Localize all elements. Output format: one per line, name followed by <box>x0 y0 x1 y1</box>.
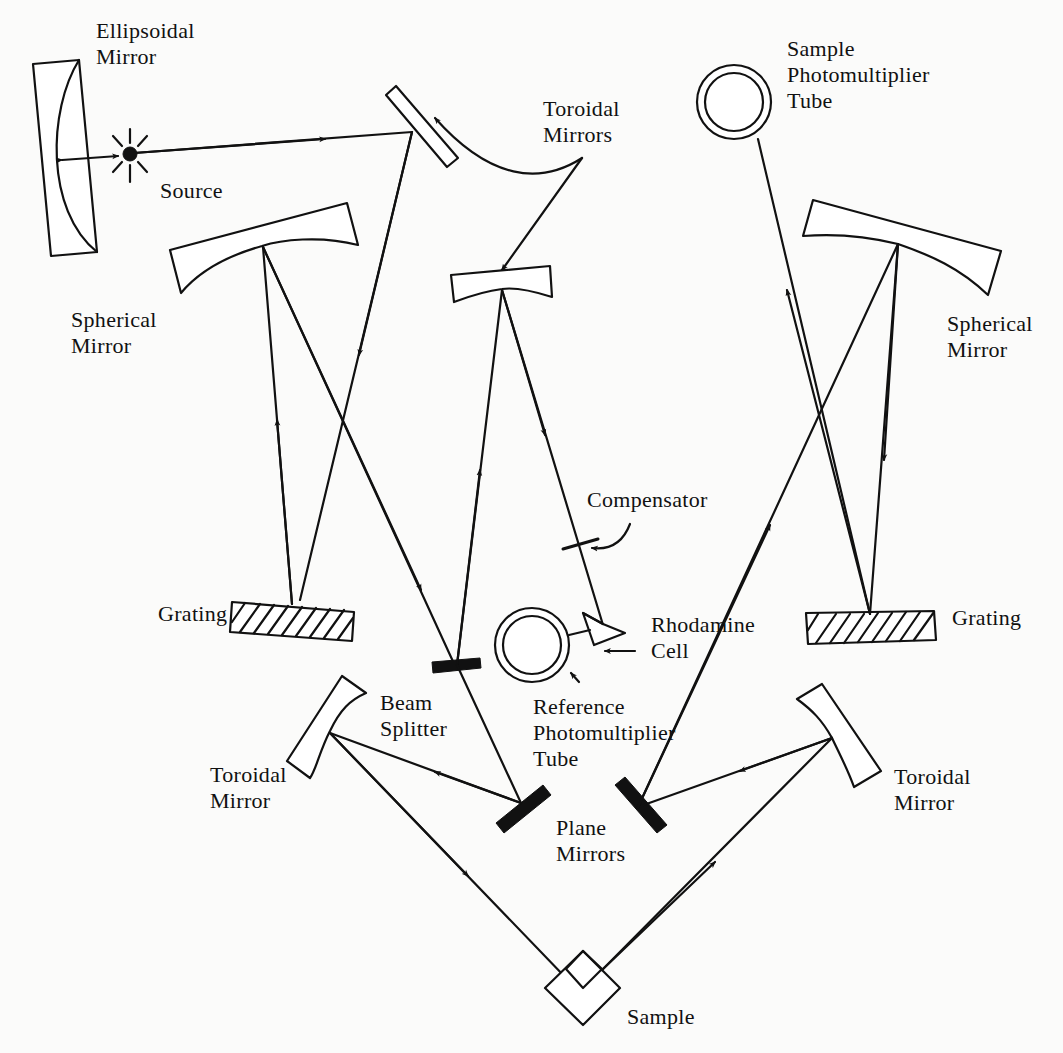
spectrometer-optical-diagram <box>0 0 1063 1053</box>
grating-right-icon <box>806 611 936 644</box>
label-source: Source <box>160 178 223 204</box>
label-grating-left: Grating <box>158 601 227 627</box>
sample-photomultiplier-icon <box>697 65 771 139</box>
rhodamine-cell-icon <box>583 613 625 645</box>
plane-mirror-left-icon <box>496 785 551 833</box>
label-ellipsoidal-mirror: Ellipsoidal Mirror <box>96 18 195 70</box>
label-beam-splitter: Beam Splitter <box>380 690 447 742</box>
label-toroidal-mirrors: Toroidal Mirrors <box>543 96 620 148</box>
label-sample: Sample <box>627 1004 695 1030</box>
grating-left-icon <box>230 602 354 641</box>
label-spherical-mirror-right: Spherical Mirror <box>947 311 1033 363</box>
label-toroidal-mirror-right: Toroidal Mirror <box>894 764 971 816</box>
label-spherical-mirror-left: Spherical Mirror <box>71 307 157 359</box>
label-toroidal-mirror-left: Toroidal Mirror <box>210 762 287 814</box>
toroidal-mirror-right-icon <box>797 684 881 787</box>
label-reference-photomultiplier-tube: Reference Photomultiplier Tube <box>533 694 676 772</box>
toroidal-mirror-left-icon <box>287 676 366 778</box>
label-compensator: Compensator <box>587 487 708 513</box>
label-rhodamine-cell: Rhodamine Cell <box>651 612 755 664</box>
reference-photomultiplier-icon <box>495 608 590 682</box>
label-grating-right: Grating <box>952 605 1021 631</box>
reference-pmt-leader <box>571 673 579 682</box>
toroidal-mirror-top-icon <box>386 86 458 167</box>
spherical-mirror-right-icon <box>803 200 1001 295</box>
label-sample-photomultiplier-tube: Sample Photomultiplier Tube <box>787 36 930 114</box>
compensator-leader <box>592 524 630 548</box>
label-plane-mirrors: Plane Mirrors <box>556 815 625 867</box>
